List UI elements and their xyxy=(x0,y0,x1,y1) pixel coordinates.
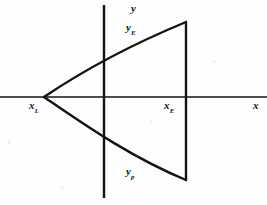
x-right-subscript: E xyxy=(170,107,175,114)
figure-canvas: y x xL xE yE yp xyxy=(0,0,267,205)
x-right-chord-label: xE xyxy=(164,100,174,114)
upper-boundary-curve xyxy=(44,22,186,97)
upper-curve-subscript: E xyxy=(131,29,136,36)
lower-curve-label: yp xyxy=(126,166,134,180)
x-axis-label: x xyxy=(253,100,259,111)
x-left-vertex-label: xL xyxy=(29,100,39,114)
x-left-subscript: L xyxy=(35,107,39,114)
upper-curve-label: yE xyxy=(126,22,135,36)
lower-curve-subscript: p xyxy=(131,173,134,180)
y-axis-label: y xyxy=(131,3,136,14)
